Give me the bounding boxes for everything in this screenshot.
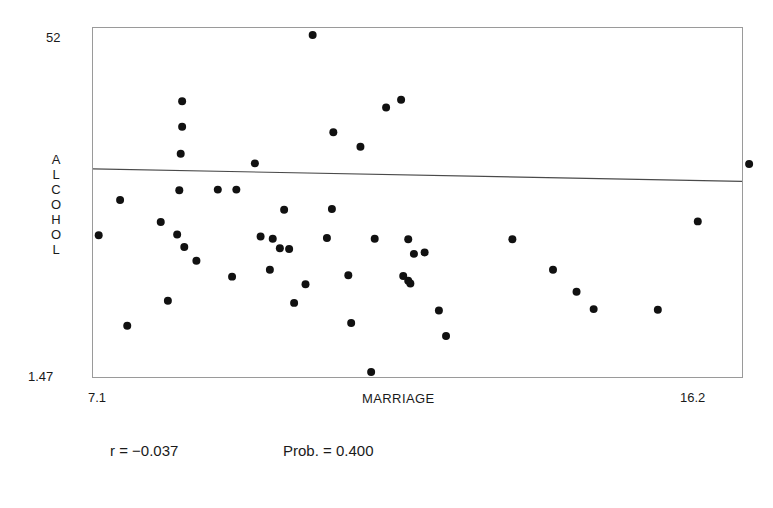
plot-canvas [93,28,742,377]
data-point [251,159,259,167]
data-point [328,205,336,213]
data-point [745,160,753,168]
data-point [573,288,581,296]
data-point [421,248,429,256]
data-point [178,97,186,105]
y-axis-min-tick-label: 1.47 [28,370,53,383]
probability-label: Prob. = 0.400 [283,442,373,459]
data-point [266,266,274,274]
data-point [323,234,331,242]
data-point [178,123,186,131]
data-point [356,143,364,151]
regression-line [93,169,742,181]
data-point [269,235,277,243]
data-point [406,280,414,288]
data-point [285,245,293,253]
data-point [397,96,405,104]
data-point [228,273,236,281]
data-point [257,233,265,241]
y-axis-title: ALCOHOL [48,152,64,257]
data-point [382,103,390,111]
data-point [214,186,222,194]
data-point [549,266,557,274]
data-point [442,332,450,340]
data-point [232,186,240,194]
correlation-coefficient-label: r = −0.037 [110,442,178,459]
data-point [280,206,288,214]
data-point [410,250,418,258]
data-point [367,368,375,376]
data-point [116,196,124,204]
data-point [180,243,188,251]
x-axis-title: MARRIAGE [362,391,435,406]
data-point [164,297,172,305]
data-point [95,231,103,239]
y-axis-title-char: H [48,212,64,227]
data-point [329,128,337,136]
data-point [344,271,352,279]
data-point [590,305,598,313]
scatter-plot-figure: 52 1.47 ALCOHOL 7.1 16.2 MARRIAGE r = −0… [0,0,773,508]
data-point [309,31,317,39]
data-point [290,299,298,307]
y-axis-title-char: C [48,182,64,197]
data-point [371,235,379,243]
data-point [177,150,185,158]
data-point [404,235,412,243]
x-axis-min-tick-label: 7.1 [88,391,106,404]
y-axis-title-char: L [48,167,64,182]
data-point [123,322,131,330]
y-axis-title-char: L [48,242,64,257]
y-axis-max-tick-label: 52 [46,31,60,44]
data-point [654,306,662,314]
data-point [173,231,181,239]
data-point [694,217,702,225]
plot-area [92,27,743,378]
data-point [435,307,443,315]
data-point [347,319,355,327]
data-point [175,186,183,194]
data-point [508,235,516,243]
x-axis-max-tick-label: 16.2 [680,391,705,404]
y-axis-title-char: O [48,197,64,212]
data-point [276,244,284,252]
data-point [157,218,165,226]
y-axis-title-char: O [48,227,64,242]
statistics-row: r = −0.037 Prob. = 0.400 [0,442,773,466]
y-axis-title-char: A [48,152,64,167]
data-point [302,280,310,288]
data-point [192,257,200,265]
